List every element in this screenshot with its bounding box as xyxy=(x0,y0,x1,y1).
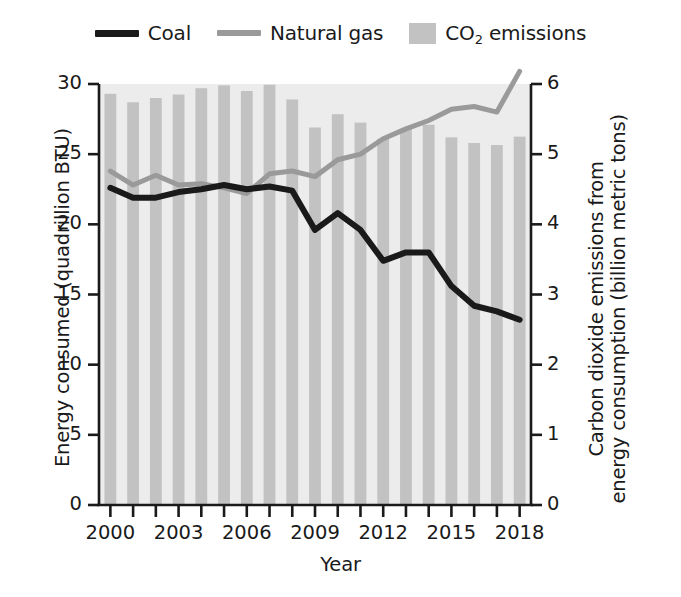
bar-2000 xyxy=(104,94,116,505)
y-right-tick-4: 4 xyxy=(547,211,593,234)
x-axis-ticks xyxy=(110,505,519,517)
bar-2015 xyxy=(446,137,458,505)
bar-2013 xyxy=(400,129,412,505)
bar-2016 xyxy=(468,143,480,505)
y-left-tick-15: 15 xyxy=(36,282,82,305)
y-right-tick-1: 1 xyxy=(547,422,593,445)
y-left-tick-0: 0 xyxy=(36,492,82,515)
y-axis-right-ticks xyxy=(531,84,542,505)
bar-2017 xyxy=(491,145,503,505)
y-axis-right-title-line2: energy consumption (billion metric tons) xyxy=(607,114,630,503)
y-left-tick-25: 25 xyxy=(36,141,82,164)
bar-2007 xyxy=(264,85,276,505)
y-axis-right-title-line1: Carbon dioxide emissions from xyxy=(585,161,608,456)
y-left-tick-20: 20 xyxy=(36,211,82,234)
bar-2009 xyxy=(309,128,321,506)
bar-2010 xyxy=(332,114,344,505)
x-axis-title: Year xyxy=(0,553,681,576)
bar-2011 xyxy=(355,123,367,505)
y-axis-left-ticks xyxy=(88,84,99,505)
bar-2001 xyxy=(127,102,139,505)
chart-container: Energy consumed (quadrillion BTU) Carbon… xyxy=(0,0,681,597)
bar-2004 xyxy=(195,88,207,505)
y-left-tick-10: 10 xyxy=(36,352,82,375)
y-right-tick-0: 0 xyxy=(547,492,593,515)
y-right-tick-2: 2 xyxy=(547,352,593,375)
y-right-tick-3: 3 xyxy=(547,282,593,305)
bar-2012 xyxy=(377,139,389,505)
y-left-tick-30: 30 xyxy=(36,71,82,94)
y-right-tick-5: 5 xyxy=(547,141,593,164)
bar-2003 xyxy=(173,95,185,505)
y-left-tick-5: 5 xyxy=(36,422,82,445)
bar-2002 xyxy=(150,98,162,505)
bar-2006 xyxy=(241,91,253,505)
bar-2008 xyxy=(286,99,298,505)
bar-2005 xyxy=(218,85,230,505)
x-tick-2018: 2018 xyxy=(480,521,560,544)
bar-2014 xyxy=(423,125,435,505)
y-right-tick-6: 6 xyxy=(547,71,593,94)
